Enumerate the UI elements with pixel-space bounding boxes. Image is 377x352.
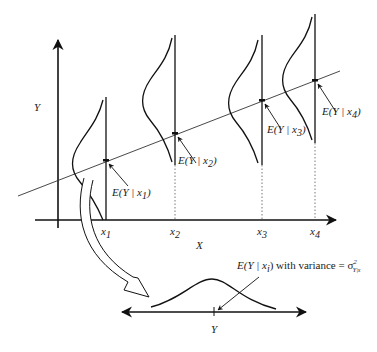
conditional-distributions — [73, 17, 313, 220]
label-mean-x2: E(Y | x2) — [177, 154, 217, 169]
x-tick-x4: x4 — [309, 225, 320, 240]
inset-axis-label: Y — [211, 323, 219, 335]
regression-diagram: E(Y | x1) E(Y | x2) E(Y | x3) E(Y | x4) … — [0, 0, 377, 352]
inset-normal-curve — [151, 279, 276, 309]
distribution-x3 — [229, 40, 259, 163]
inset-annotation: E(Y | xi) with variance = σ2Y|x — [236, 258, 361, 274]
distribution-x2 — [143, 38, 173, 162]
label-mean-x1: E(Y | x1) — [111, 186, 151, 201]
label-mean-x4: E(Y | x4) — [321, 105, 361, 120]
x-axis-label: X — [195, 239, 204, 251]
x-tick-x1: x1 — [100, 225, 111, 240]
x-tick-x3: x3 — [256, 225, 267, 240]
label-mean-x3: E(Y | x3) — [266, 123, 306, 138]
y-axis-label: Y — [34, 101, 42, 113]
inset-y-axis — [122, 307, 306, 316]
x-tick-x2: x2 — [169, 225, 180, 240]
distribution-x4 — [283, 17, 313, 140]
